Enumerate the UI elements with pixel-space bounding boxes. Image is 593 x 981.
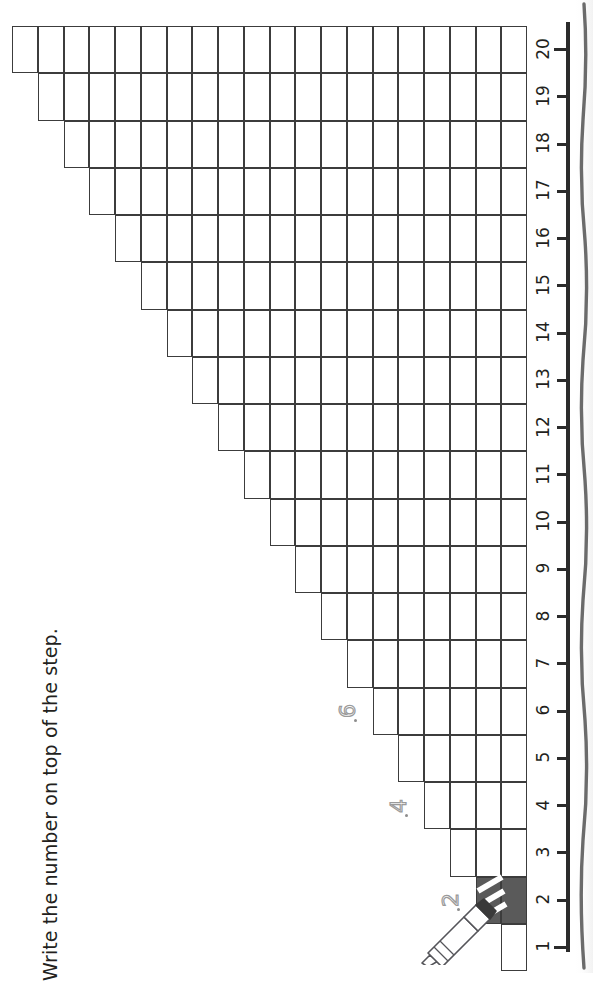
trace-numeral-glyph: 4 xyxy=(386,799,411,813)
axis-tick xyxy=(557,615,567,618)
axis-tick-label: 4 xyxy=(533,788,553,822)
axis-tick xyxy=(557,662,567,665)
axis-tick xyxy=(557,710,567,713)
axis-tick xyxy=(557,332,567,335)
axis-tick xyxy=(557,190,567,193)
axis-tick xyxy=(557,851,567,854)
trace-start-dot xyxy=(354,719,357,722)
axis-tick xyxy=(557,473,567,476)
axis-tick xyxy=(557,757,567,760)
axis-line xyxy=(566,22,570,952)
axis-tick xyxy=(557,426,567,429)
axis-tick-label: 8 xyxy=(533,599,553,633)
axis-tick-label: 16 xyxy=(533,221,553,255)
book-spine-edge xyxy=(575,0,593,973)
trace-start-dot xyxy=(405,814,408,817)
axis-tick-label: 6 xyxy=(533,693,553,727)
axis-tick-label: 11 xyxy=(533,457,553,491)
axis-tick-label: 5 xyxy=(533,740,553,774)
axis-tick xyxy=(557,95,567,98)
axis-tick xyxy=(557,237,567,240)
trace-numeral: 4 xyxy=(385,793,413,819)
axis-tick xyxy=(557,521,567,524)
axis-tick-label: 14 xyxy=(533,315,553,349)
axis-tick xyxy=(557,284,567,287)
axis-tick-label: 13 xyxy=(533,362,553,396)
axis-tick-label: 12 xyxy=(533,410,553,444)
trace-numeral: 6 xyxy=(334,698,362,724)
axis-cap-top xyxy=(554,48,567,52)
axis-tick-label: 18 xyxy=(533,126,553,160)
axis-cap-bottom xyxy=(554,946,567,950)
axis-tick-label: 7 xyxy=(533,646,553,680)
axis-tick-label: 15 xyxy=(533,268,553,302)
axis-tick-label: 17 xyxy=(533,173,553,207)
axis-tick-label: 20 xyxy=(533,32,553,66)
axis-tick-label: 9 xyxy=(533,551,553,585)
axis-tick xyxy=(557,143,567,146)
axis-tick xyxy=(557,804,567,807)
axis-tick xyxy=(557,568,567,571)
trace-numeral-glyph: 6 xyxy=(335,704,360,718)
axis-tick-label: 19 xyxy=(533,79,553,113)
axis-tick-label: 10 xyxy=(533,504,553,538)
pencil-icon xyxy=(418,855,538,965)
axis-tick xyxy=(557,379,567,382)
axis-tick xyxy=(557,899,567,902)
